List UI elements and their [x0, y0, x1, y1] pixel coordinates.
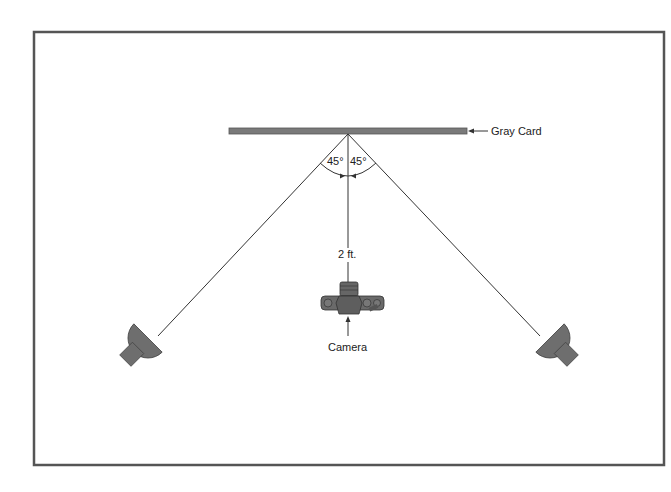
angle-right-label: 45°: [350, 155, 367, 167]
right-lamp-icon: [536, 324, 587, 375]
gray-card-arrow: [468, 129, 488, 134]
left-lamp-icon: [111, 324, 162, 375]
gray-card-label: Gray Card: [491, 125, 542, 137]
arc-arrow-left: [340, 174, 345, 179]
camera-label: Camera: [328, 341, 368, 353]
arc-arrow-right: [351, 174, 356, 179]
gray-card: [229, 128, 467, 134]
camera-arrow: [346, 316, 351, 336]
distance-label: 2 ft.: [338, 248, 356, 260]
camera-icon: [321, 282, 384, 314]
lighting-diagram: Gray Card 45° 45° 2 ft. Camera: [0, 0, 671, 492]
angle-left-label: 45°: [327, 155, 344, 167]
left-light-line: [158, 134, 348, 336]
